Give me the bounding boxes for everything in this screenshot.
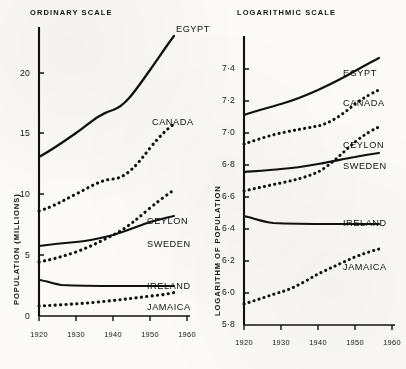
- panel-ordinary-scale: ORDINARY SCALE POPULATION (MILLIONS) 0 5…: [0, 0, 203, 369]
- series-label-ireland-ordinary: IRELAND: [147, 281, 191, 291]
- series-label-egypt-logarithmic: EGYPT: [343, 68, 377, 78]
- series-label-canada-ordinary: CANADA: [152, 117, 194, 127]
- panel-logarithmic-scale: LOGARITHMIC SCALE LOGARITHM OF POPULATIO…: [203, 0, 406, 369]
- series-label-ceylon-ordinary: CEYLON: [147, 216, 188, 226]
- series-line-canada-ordinary: [39, 124, 174, 211]
- series-line-jamaica-logarithmic: [244, 249, 379, 304]
- series-label-jamaica-logarithmic: JAMAICA: [343, 262, 387, 272]
- plot-area-ordinary: [0, 0, 203, 369]
- series-label-ireland-logarithmic: IRELAND: [343, 218, 387, 228]
- series-label-sweden-logarithmic: SWEDEN: [343, 161, 387, 171]
- series-line-ceylon-ordinary: [39, 190, 174, 262]
- series-label-jamaica-ordinary: JAMAICA: [147, 302, 191, 312]
- series-label-canada-logarithmic: CANADA: [343, 98, 385, 108]
- plot-area-logarithmic: [203, 0, 406, 369]
- series-line-egypt-ordinary: [39, 36, 174, 157]
- series-label-ceylon-logarithmic: CEYLON: [343, 140, 384, 150]
- series-label-sweden-ordinary: SWEDEN: [147, 239, 191, 249]
- figure-population-scales: ORDINARY SCALE POPULATION (MILLIONS) 0 5…: [0, 0, 406, 369]
